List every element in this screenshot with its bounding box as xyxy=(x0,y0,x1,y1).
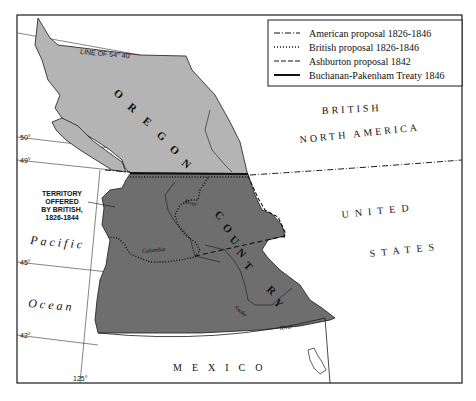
svg-text:49°: 49° xyxy=(20,157,31,164)
legend: American proposal 1826-1846 British prop… xyxy=(268,20,462,86)
svg-text:1826-1844: 1826-1844 xyxy=(45,214,79,221)
mexico-label: MEXICO xyxy=(173,362,272,373)
legend-item-british: British proposal 1826-1846 xyxy=(309,42,419,53)
svg-text:42°: 42° xyxy=(20,332,31,339)
svg-text:BY BRITISH,: BY BRITISH, xyxy=(41,206,83,214)
oregon-country-map: American proposal 1826-1846 British prop… xyxy=(0,0,476,401)
legend-item-ashburton: Ashburton proposal 1842 xyxy=(309,56,411,67)
treaty-1846-line xyxy=(130,173,248,174)
svg-text:50°: 50° xyxy=(20,134,31,141)
longitude-label: 125° xyxy=(73,375,88,382)
svg-text:45°: 45° xyxy=(20,259,31,266)
legend-item-treaty: Buchanan-Pakenham Treaty 1846 xyxy=(309,70,445,81)
legend-item-american: American proposal 1826-1846 xyxy=(309,28,431,39)
svg-text:OFFERED: OFFERED xyxy=(45,198,78,205)
territory-offered-label: TERRITORY OFFERED BY BRITISH, 1826-1844 xyxy=(41,190,83,221)
svg-text:TERRITORY: TERRITORY xyxy=(42,190,82,197)
